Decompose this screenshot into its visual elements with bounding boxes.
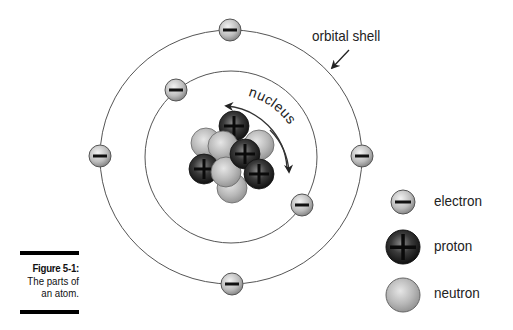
electron-outer-bottom [221, 273, 243, 295]
orbital-shell-arrow [332, 50, 349, 68]
legend-neutron-label: neutron [434, 284, 480, 301]
figure-number: Figure 5-1: [22, 262, 79, 275]
electron-inner-lower-right [291, 194, 313, 216]
orbital-shell-label: orbital shell [312, 27, 380, 44]
caption-line-1: The parts of [22, 275, 79, 287]
legend-proton-icon [386, 230, 420, 264]
caption-rule-top [20, 251, 79, 255]
nucleus [189, 111, 274, 203]
caption-rule-bottom [20, 310, 79, 314]
electron-inner-upper-left [165, 79, 187, 101]
electron-outer-right [351, 145, 373, 167]
legend-neutron-icon [386, 278, 420, 312]
figure-caption: Figure 5-1: The parts of an atom. [14, 262, 79, 299]
legend-electron-icon [391, 190, 415, 214]
caption-line-2: an atom. [22, 287, 79, 299]
electron-outer-top [219, 19, 241, 41]
legend-proton-label: proton [434, 237, 472, 254]
legend-electron-label: electron [434, 192, 482, 209]
atom-diagram: nucleus [0, 0, 513, 330]
proton [244, 159, 274, 189]
electron-outer-left [89, 145, 111, 167]
nucleus-label: nucleus [247, 84, 300, 128]
